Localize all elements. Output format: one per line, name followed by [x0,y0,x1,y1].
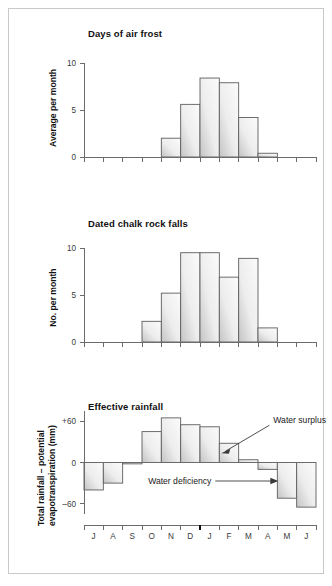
y-tick-label: 0 [71,459,76,468]
month-label-0: J [92,532,96,541]
bar-a-1 [103,463,122,484]
panel-days-of-air-frost: Days of air frost Average per month 0510 [0,0,332,190]
bar-m-8 [239,258,258,342]
bar-o-3 [142,432,161,463]
chart-plot-2: 0510 [0,190,332,380]
bar-n-4 [161,293,180,342]
month-label-10: M [284,532,291,541]
bar-j-6 [200,78,219,157]
panel-effective-rainfall: Effective rainfall Total rainfall – pote… [0,380,332,586]
annotation-water-deficiency: Water deficiency [148,476,212,486]
month-label-8: M [245,532,252,541]
y-tick-label: +60 [62,417,76,426]
month-label-5: D [187,532,193,541]
month-label-3: O [148,532,154,541]
annotation-water-surplus: Water surplus [273,415,326,425]
bar-j-6 [200,427,219,463]
bar-f-7 [219,83,238,157]
y-tick-label: 10 [67,244,77,253]
month-label-6: J [208,532,212,541]
month-label-4: N [168,532,174,541]
y-tick-label: 0 [71,153,76,162]
figure-root: Days of air frost Average per month 0510… [0,0,332,586]
y-tick-label: 5 [71,106,76,115]
bar-a-9 [258,328,277,342]
month-label-2: S [130,532,136,541]
bar-n-4 [161,418,180,463]
bar-d-5 [181,253,200,342]
bar-a-9 [258,153,277,157]
panel-dated-chalk-rock-falls: Dated chalk rock falls No. per month 051… [0,190,332,380]
month-label-1: A [110,532,116,541]
bar-m-8 [239,118,258,157]
bar-j-6 [200,253,219,342]
y-tick-label: 0 [71,338,76,347]
bar-j-0 [84,463,103,490]
bar-d-5 [181,425,200,463]
bar-d-5 [181,104,200,157]
y-tick-label: –60 [62,500,76,509]
bar-j-11 [297,463,316,508]
chart-plot-3: –600+60JASONDJFMAMJWater surplusWater de… [0,380,332,586]
month-label-7: F [226,532,231,541]
water-surplus-leader-line [225,425,269,451]
chart-plot-1: 0510 [0,0,332,190]
month-label-11: J [304,532,308,541]
bar-m-10 [277,463,296,499]
bar-o-3 [142,321,161,342]
bar-n-4 [161,138,180,157]
bar-a-9 [258,463,277,470]
y-tick-label: 5 [71,291,76,300]
y-tick-label: 10 [67,59,77,68]
bar-f-7 [219,277,238,342]
month-label-9: A [265,532,271,541]
